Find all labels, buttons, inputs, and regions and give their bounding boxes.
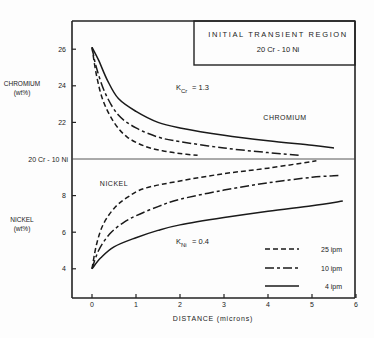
legend-label: 25 ipm bbox=[321, 246, 342, 254]
legend: 25 ipm10 ipm4 ipm bbox=[265, 246, 342, 291]
chart-subtitle: 20 Cr - 10 Ni bbox=[257, 45, 300, 54]
x-tick-label: 0 bbox=[90, 301, 94, 308]
chromium-axis-label-line2: (wt%) bbox=[14, 89, 31, 97]
chromium-axis-label-line1: CHROMIUM bbox=[4, 80, 40, 87]
chromium-curve-4-ipm bbox=[92, 47, 334, 148]
title-box bbox=[194, 21, 355, 65]
k-cr-annotation: K Cr = 1.3 bbox=[176, 83, 209, 94]
chart: INITIAL TRANSIENT REGION 20 Cr - 10 Ni 2… bbox=[0, 0, 374, 338]
nickel-axis-label-line1: NICKEL bbox=[10, 216, 34, 223]
x-ticks: 0123456 bbox=[90, 294, 358, 308]
svg-text:Cr: Cr bbox=[181, 88, 187, 94]
y-tick-label: 22 bbox=[58, 119, 66, 126]
x-tick-label: 6 bbox=[354, 301, 358, 308]
chromium-curve-25-ipm bbox=[92, 47, 198, 155]
x-tick-label: 3 bbox=[222, 301, 226, 308]
x-tick-label: 5 bbox=[310, 301, 314, 308]
svg-text:= 0.4: = 0.4 bbox=[192, 237, 209, 246]
legend-label: 4 ipm bbox=[325, 283, 342, 291]
y-tick-label: 24 bbox=[58, 82, 66, 89]
y-tick-label: 26 bbox=[58, 46, 66, 53]
chromium-curve-10-ipm bbox=[92, 47, 299, 155]
y-tick-label: 4 bbox=[62, 265, 66, 272]
nickel-curve-25-ipm bbox=[92, 161, 316, 269]
svg-text:Ni: Ni bbox=[181, 242, 187, 248]
nickel-axis-label-line2: (wt%) bbox=[14, 225, 31, 233]
x-tick-label: 1 bbox=[134, 301, 138, 308]
nickel-curve-10-ipm bbox=[92, 175, 338, 268]
x-tick-label: 2 bbox=[178, 301, 182, 308]
x-tick-label: 4 bbox=[266, 301, 270, 308]
chart-title: INITIAL TRANSIENT REGION bbox=[208, 30, 348, 39]
curves bbox=[92, 47, 343, 268]
y-tick-label: 8 bbox=[62, 192, 66, 199]
chromium-region-label: CHROMIUM bbox=[263, 114, 306, 121]
svg-text:= 1.3: = 1.3 bbox=[192, 83, 209, 92]
nickel-curve-4-ipm bbox=[92, 201, 343, 269]
baseline-label: 20 Cr - 10 Ni bbox=[28, 156, 68, 163]
y-tick-label: 6 bbox=[62, 229, 66, 236]
legend-label: 10 ipm bbox=[321, 265, 342, 273]
nickel-region-label: NICKEL bbox=[100, 180, 128, 187]
k-ni-annotation: K Ni = 0.4 bbox=[176, 237, 209, 248]
x-axis-label: DISTANCE (microns) bbox=[173, 315, 253, 323]
